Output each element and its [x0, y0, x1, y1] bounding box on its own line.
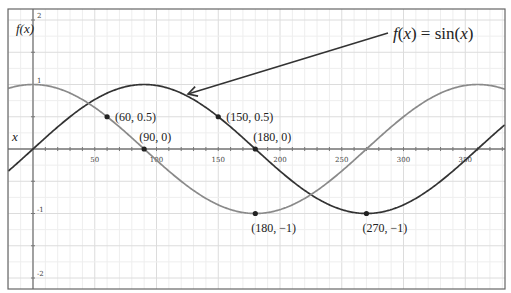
data-points: (60, 0.5)(90, 0)(150, 0.5)(180, 0)(180, … [105, 110, 408, 235]
x-tick-label: 250 [335, 156, 348, 164]
x-tick-label: 200 [273, 156, 286, 164]
data-point [216, 114, 221, 119]
data-point [253, 211, 258, 216]
point-label: (90, 0) [139, 130, 171, 144]
y-tick-label: 1 [37, 77, 41, 85]
x-tick-label: 300 [397, 156, 410, 164]
point-label: (180, 0) [253, 130, 291, 144]
y-tick-label: -2 [37, 270, 44, 278]
point-label: (270, −1) [362, 221, 407, 235]
x-tick-label: 50 [90, 156, 99, 164]
data-point [253, 146, 258, 151]
x-tick-label: 150 [212, 156, 225, 164]
point-label: (180, −1) [251, 221, 296, 235]
data-point [105, 114, 110, 119]
sine-cosine-chart: 5010015020025030035021-1-2 (60, 0.5)(90,… [0, 0, 511, 293]
y-axis-label: f(x) [16, 21, 34, 36]
data-point [142, 146, 147, 151]
y-tick-label: -1 [37, 206, 44, 214]
x-axis-label: x [11, 129, 18, 144]
function-title-label: f(x) = sin(x) [393, 24, 473, 43]
data-point [364, 211, 369, 216]
point-label: (60, 0.5) [115, 110, 156, 124]
point-label: (150, 0.5) [226, 110, 273, 124]
y-tick-label: 2 [37, 12, 41, 20]
